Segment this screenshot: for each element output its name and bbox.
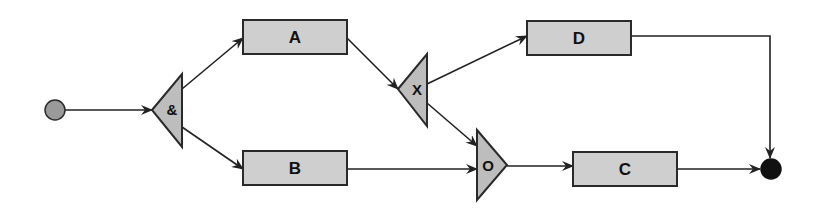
- edge-x-to-d: [427, 36, 527, 84]
- edge-and-to-b: [182, 127, 243, 169]
- gateway-and[interactable]: &: [152, 74, 182, 147]
- task-a[interactable]: A: [243, 20, 347, 54]
- task-a-label: A: [289, 28, 301, 47]
- start-event[interactable]: [45, 100, 65, 120]
- gateway-or[interactable]: O: [477, 130, 507, 200]
- task-b[interactable]: B: [243, 151, 347, 185]
- task-c-label: C: [619, 160, 631, 179]
- edge-a-to-x: [347, 38, 398, 89]
- edge-d-to-end: [631, 36, 770, 158]
- task-c[interactable]: C: [573, 152, 677, 186]
- gateway-xor[interactable]: X: [398, 54, 427, 126]
- gateway-xor-label: X: [412, 81, 422, 98]
- task-d[interactable]: D: [527, 21, 631, 55]
- task-b-label: B: [289, 159, 301, 178]
- end-event[interactable]: [761, 159, 781, 179]
- edge-x-to-o: [427, 103, 477, 146]
- gateway-or-label: O: [482, 157, 494, 174]
- process-diagram: & X O A B C D: [0, 0, 821, 212]
- task-d-label: D: [573, 29, 585, 48]
- edge-and-to-a: [182, 38, 243, 89]
- gateway-and-label: &: [167, 101, 178, 118]
